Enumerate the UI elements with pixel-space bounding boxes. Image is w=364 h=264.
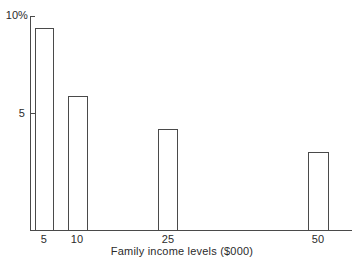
bar-50 — [308, 152, 329, 231]
y-axis-label-10: 10% — [0, 9, 28, 21]
x-axis-label-50: 50 — [298, 233, 338, 245]
y-axis-label-5: 5 — [0, 107, 25, 119]
bar-10 — [68, 96, 88, 231]
x-axis-title: Family income levels ($000) — [0, 245, 364, 257]
x-axis-label-10: 10 — [57, 233, 97, 245]
y-axis-tick-10 — [30, 16, 35, 17]
x-axis-label-25: 25 — [148, 233, 188, 245]
bar-5 — [35, 28, 54, 231]
bar-chart: 10% 5 5 10 25 50 Family income levels ($… — [0, 0, 364, 264]
y-axis-line — [30, 16, 31, 231]
bar-25 — [158, 129, 178, 231]
